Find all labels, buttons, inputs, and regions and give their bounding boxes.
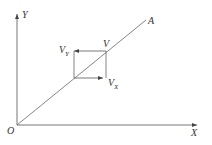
svg-text:Y: Y [65,50,70,58]
svg-text:X: X [113,83,119,91]
x-axis-label: X [190,127,198,138]
vx-label: V X [108,77,119,91]
line-a-label: A [147,15,155,26]
y-axis-label: Y [22,9,29,20]
vector-v-label: V [103,38,111,49]
line-oa [17,20,146,125]
vector-diagram: Y X O A V V Y V X [0,0,212,145]
origin-label: O [7,125,14,136]
vy-label: V Y [59,44,70,58]
